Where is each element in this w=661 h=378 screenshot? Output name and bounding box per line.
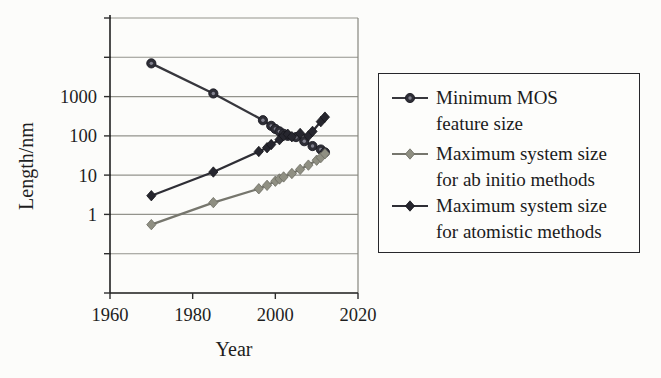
- legend-label-line: Minimum MOS: [436, 87, 558, 108]
- y-tick-label: 1: [88, 205, 97, 225]
- figure: 10001001011960198020002020YearLength/nm …: [0, 0, 661, 378]
- legend-label-line: feature size: [436, 113, 523, 134]
- data-point-diamond: [262, 180, 271, 190]
- y-tick-label: 1000: [60, 87, 97, 107]
- data-point-diamond: [254, 184, 263, 194]
- data-point-circle-center: [150, 62, 153, 65]
- series-line-2: [151, 117, 325, 196]
- x-axis-title: Year: [216, 338, 253, 360]
- data-point-diamond: [147, 190, 156, 200]
- data-point-diamond: [405, 149, 414, 159]
- circle-marker-icon: [391, 91, 429, 105]
- legend-label-line: Maximum system size: [436, 143, 607, 164]
- diamond-marker-icon: [391, 199, 429, 213]
- legend: Minimum MOSfeature size Maximum system s…: [378, 73, 640, 253]
- x-tick-label: 1960: [92, 305, 129, 325]
- legend-label: Maximum system sizefor atomistic methods: [436, 193, 607, 245]
- data-point-diamond: [147, 219, 156, 229]
- legend-label-line: for ab initio methods: [436, 169, 595, 190]
- data-point-diamond: [405, 201, 414, 211]
- data-point-diamond: [296, 164, 305, 174]
- data-point-circle-center: [261, 119, 264, 122]
- data-point-circle-center: [303, 140, 306, 143]
- legend-entry-atomistic: Maximum system sizefor atomistic methods: [391, 193, 635, 245]
- data-point-diamond: [304, 160, 313, 170]
- data-point-diamond: [209, 197, 218, 207]
- y-tick-label: 100: [69, 126, 97, 146]
- data-point-circle-center: [311, 144, 314, 147]
- data-point-diamond: [209, 167, 218, 177]
- data-point-diamond: [287, 168, 296, 178]
- legend-label: Maximum system sizefor ab initio methods: [436, 141, 607, 193]
- data-point-circle-center: [408, 96, 411, 99]
- legend-entry-mos-feature-size: Minimum MOSfeature size: [391, 85, 635, 137]
- x-tick-label: 1980: [174, 305, 211, 325]
- x-tick-label: 2000: [257, 305, 294, 325]
- legend-label-line: Maximum system size: [436, 195, 607, 216]
- diamond-marker-icon: [391, 147, 429, 161]
- legend-entry-ab-initio: Maximum system sizefor ab initio methods: [391, 141, 635, 193]
- y-axis-title: Length/nm: [15, 122, 38, 210]
- data-point-diamond: [254, 146, 263, 156]
- legend-label-line: for atomistic methods: [436, 221, 602, 242]
- x-tick-label: 2020: [340, 305, 377, 325]
- legend-label: Minimum MOSfeature size: [436, 85, 558, 137]
- data-point-circle-center: [212, 92, 215, 95]
- y-tick-label: 10: [79, 166, 98, 186]
